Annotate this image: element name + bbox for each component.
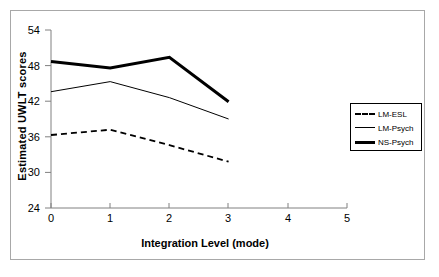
series-line-ns-psych — [51, 57, 229, 102]
x-tick-marks — [51, 203, 347, 208]
x-tick-label-4: 4 — [278, 212, 298, 224]
x-tick-label-5: 5 — [337, 212, 357, 224]
y-tick-label-42: 42 — [14, 95, 40, 107]
x-tick-label-0: 0 — [41, 212, 61, 224]
x-tick-label-1: 1 — [100, 212, 120, 224]
x-tick-label-3: 3 — [218, 212, 238, 224]
x-axis-label: Integration Level (mode) — [60, 237, 350, 249]
y-tick-label-54: 54 — [14, 24, 40, 36]
chart-legend: LM-ESL LM-Psych NS-Psych — [350, 103, 422, 151]
legend-item-ns-psych: NS-Psych — [354, 135, 419, 149]
legend-label-ns-psych: NS-Psych — [376, 138, 414, 147]
y-tick-label-48: 48 — [14, 60, 40, 72]
legend-key-thick-line-icon — [354, 137, 376, 147]
legend-label-lm-esl: LM-ESL — [376, 110, 407, 119]
legend-label-lm-psych: LM-Psych — [376, 124, 414, 133]
y-tick-label-30: 30 — [14, 166, 40, 178]
y-tick-marks — [45, 30, 51, 208]
legend-item-lm-esl: LM-ESL — [354, 107, 419, 121]
series-line-lm-psych — [51, 82, 229, 119]
y-tick-label-24: 24 — [14, 202, 40, 214]
legend-item-lm-psych: LM-Psych — [354, 121, 419, 135]
legend-key-dashed-icon — [354, 109, 376, 119]
x-tick-label-2: 2 — [159, 212, 179, 224]
legend-key-thin-line-icon — [354, 123, 376, 133]
y-tick-label-36: 36 — [14, 131, 40, 143]
y-axis-label: Estimated UWLT scores — [16, 26, 28, 206]
series-line-lm-esl — [51, 130, 229, 162]
